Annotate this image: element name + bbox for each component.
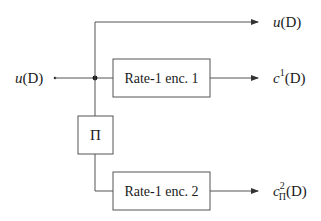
parity1-output-label: c1(D) <box>273 67 306 87</box>
systematic-output-label: u(D) <box>273 14 301 31</box>
encoder1-label: Rate-1 enc. 1 <box>124 71 198 86</box>
encoder2-label: Rate-1 enc. 2 <box>124 184 198 199</box>
input-label: u(D) <box>15 70 43 87</box>
turbo-encoder-diagram: u(D) u(D) Rate-1 enc. 1 c1(D) Π Rate-1 e… <box>0 0 321 221</box>
interleaver-label: Π <box>90 127 101 143</box>
parity2-output-label: c2Π(D) <box>273 180 307 202</box>
